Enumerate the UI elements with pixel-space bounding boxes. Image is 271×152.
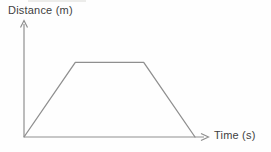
- chart-canvas: Distance (m) Time (s): [0, 0, 271, 152]
- y-axis: [21, 21, 28, 138]
- x-axis: [24, 134, 209, 141]
- x-axis-label: Time (s): [214, 129, 256, 142]
- distance-time-curve: [24, 62, 195, 137]
